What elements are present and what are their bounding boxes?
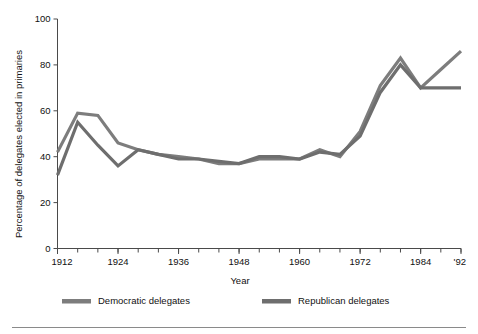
y-tick-label: 60 xyxy=(40,105,51,116)
x-axis-title: Year xyxy=(230,275,249,286)
primaries-line-chart: Percentage of delegates elected in prima… xyxy=(0,0,478,334)
legend-swatch-republican xyxy=(262,299,291,304)
chart-legend: Democratic delegates Republican delegate… xyxy=(62,295,390,306)
x-tick-label: '92 xyxy=(454,256,466,267)
legend-label-republican: Republican delegates xyxy=(298,295,390,306)
y-axis-title: Percentage of delegates elected in prima… xyxy=(13,50,24,238)
chart-figure: Percentage of delegates elected in prima… xyxy=(0,0,478,334)
y-tick-label: 20 xyxy=(40,197,51,208)
x-tick-label: 1912 xyxy=(52,256,73,267)
legend-swatch-democratic xyxy=(62,299,91,304)
x-tick-label: 1936 xyxy=(168,256,189,267)
x-tick-label: 1924 xyxy=(107,256,128,267)
x-tick-label: 1960 xyxy=(289,256,310,267)
y-tick-label: 100 xyxy=(35,13,51,24)
x-axis-tick-labels: 1912192419361948196019721984'92 xyxy=(52,256,467,267)
y-tick-label: 80 xyxy=(40,59,51,70)
x-tick-label: 1984 xyxy=(410,256,431,267)
bottom-divider xyxy=(12,327,466,328)
y-axis-tick-labels: 020406080100 xyxy=(35,13,51,254)
y-tick-label: 0 xyxy=(45,243,50,254)
x-tick-label: 1972 xyxy=(350,256,371,267)
x-tick-label: 1948 xyxy=(229,256,250,267)
series-lines xyxy=(58,51,462,175)
y-axis-ticks xyxy=(54,19,58,249)
series-line-democratic-delegates xyxy=(58,51,462,163)
y-tick-label: 40 xyxy=(40,151,51,162)
legend-label-democratic: Democratic delegates xyxy=(98,295,190,306)
